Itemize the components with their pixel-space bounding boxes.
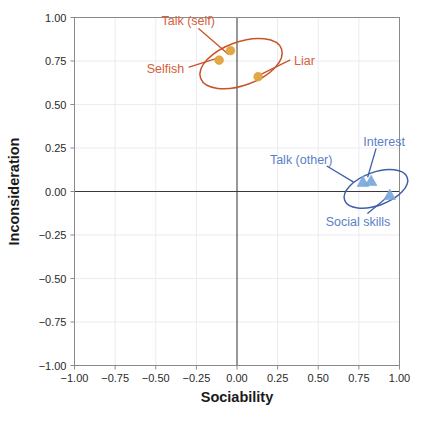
y-tick-label: 0.50 bbox=[45, 99, 66, 111]
x-tick-label: −1.00 bbox=[61, 372, 89, 384]
cropped-caption-fragment bbox=[14, 416, 254, 423]
x-tick-label: 0.00 bbox=[226, 372, 247, 384]
x-axis-tick-labels: −1.00−0.75−0.50−0.250.000.250.500.751.00 bbox=[61, 372, 411, 384]
y-tick-label: 0.75 bbox=[45, 55, 66, 67]
data-point-circle bbox=[215, 56, 224, 65]
y-tick-label: −1.00 bbox=[39, 360, 67, 372]
x-tick-label: −0.25 bbox=[182, 372, 210, 384]
y-tick-label: −0.50 bbox=[39, 273, 67, 285]
x-tick-label: 0.25 bbox=[267, 372, 288, 384]
y-axis-title: Inconsideration bbox=[6, 138, 22, 246]
x-axis-title: Sociability bbox=[201, 389, 274, 405]
x-tick-label: 0.75 bbox=[348, 372, 369, 384]
point-label: Selfish bbox=[147, 62, 185, 76]
data-point-circle bbox=[226, 46, 235, 55]
x-tick-label: 0.50 bbox=[308, 372, 329, 384]
y-tick-label: 0.00 bbox=[45, 186, 66, 198]
y-tick-label: 0.25 bbox=[45, 142, 66, 154]
point-label: Liar bbox=[294, 54, 315, 68]
point-label: Interest bbox=[363, 135, 405, 149]
data-point-circle bbox=[254, 72, 263, 81]
scatter-plot: −1.00−0.75−0.50−0.250.000.250.500.751.00… bbox=[0, 0, 423, 425]
figure-container: −1.00−0.75−0.50−0.250.000.250.500.751.00… bbox=[0, 0, 423, 425]
point-label: Talk (other) bbox=[270, 153, 333, 167]
point-label: Talk (self) bbox=[162, 14, 215, 28]
x-tick-label: −0.50 bbox=[142, 372, 170, 384]
y-tick-label: 1.00 bbox=[45, 12, 66, 24]
y-tick-label: −0.25 bbox=[39, 229, 67, 241]
x-tick-label: −0.75 bbox=[101, 372, 129, 384]
point-label: Social skills bbox=[326, 215, 391, 229]
x-tick-label: 1.00 bbox=[389, 372, 410, 384]
y-tick-label: −0.75 bbox=[39, 316, 67, 328]
